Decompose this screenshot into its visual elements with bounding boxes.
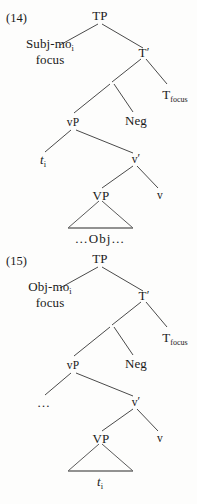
node-vp-big-15: VP [93,432,110,447]
node-tp-14-label: TP [92,8,107,23]
node-neg-15-label: Neg [125,356,147,371]
node-t-bar-14-label: T [139,45,147,60]
node-neg-15: Neg [125,357,147,372]
node-trace-14-subscript: i [44,158,46,168]
node-spec-obj-text: Obj-mo [28,279,69,294]
node-spec-obj-subscript: i [69,286,71,296]
node-triangle-label-15: ti [97,475,103,490]
node-t-focus-15: Tfocus [162,331,187,346]
node-vp-big-14: VP [93,189,110,204]
figure-page: (14) TP Subj-moi focus T′ Tfocus vP Neg … [0,0,197,504]
node-t-bar-15-label: T [139,288,147,303]
prime-icon: ′ [138,394,141,408]
cut-off-text-line: …………………… [6,499,197,504]
node-vp-small-14: vP [67,115,79,130]
node-t-focus-14-label: T [162,87,170,102]
node-t-focus-15-subscript: focus [170,337,187,346]
node-v-bar-15-label: v [132,396,138,408]
node-t-focus-14: Tfocus [162,88,187,103]
example-number-14: (14) [6,11,27,26]
node-trace-14: ti [40,153,46,168]
node-vp-small-15: vP [67,358,79,373]
node-v-15: v [157,431,163,446]
node-ellipsis-15: … [37,396,51,411]
node-v-14-label: v [157,189,163,201]
prime-icon: ′ [138,151,141,165]
node-vp-big-14-label: VP [93,188,110,203]
node-spec-subj-focus-14: Subj-moi focus [26,36,74,67]
node-vp-big-15-label: VP [93,431,110,446]
node-t-bar-14: T′ [139,46,150,61]
node-t-bar-15: T′ [139,289,150,304]
node-spec-subj-line1: Subj-moi [26,36,74,52]
node-ellipsis-15-label: … [37,395,51,410]
node-tp-15-label: TP [92,251,107,266]
node-t-focus-14-subscript: focus [170,94,187,103]
node-triangle-label-15-subscript: i [101,480,103,490]
node-v-14: v [157,188,163,203]
node-neg-14: Neg [125,114,147,129]
node-v-15-label: v [157,432,163,444]
node-vp-small-15-label: vP [67,359,79,371]
prime-icon: ′ [147,45,150,59]
node-spec-subj-line2: focus [26,52,74,68]
node-vp-small-14-label: vP [67,116,79,128]
node-v-bar-14-label: v [132,153,138,165]
node-spec-subj-text: Subj-mo [26,36,71,51]
node-spec-obj-line2: focus [28,295,72,311]
prime-icon: ′ [147,288,150,302]
node-spec-subj-subscript: i [72,43,74,53]
example-number-15: (15) [6,254,27,269]
node-tp-14: TP [92,9,107,24]
node-spec-obj-line1: Obj-moi [28,279,72,295]
node-spec-obj-focus-15: Obj-moi focus [28,279,72,310]
node-v-bar-15: v′ [132,395,141,410]
node-neg-14-label: Neg [125,113,147,128]
node-v-bar-14: v′ [132,152,141,167]
node-tp-15: TP [92,252,107,267]
node-t-focus-15-label: T [162,330,170,345]
